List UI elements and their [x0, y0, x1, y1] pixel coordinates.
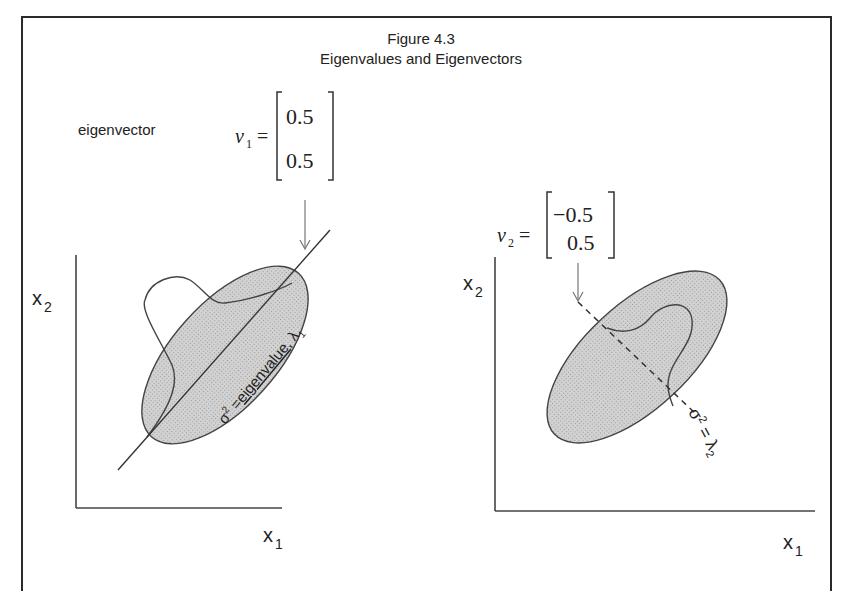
left-ellipse — [113, 238, 337, 471]
v1-axis-line — [118, 230, 330, 470]
svg-text:1: 1 — [275, 536, 283, 552]
svg-text:x: x — [263, 524, 273, 546]
svg-text:2: 2 — [508, 236, 514, 250]
svg-text:0.5: 0.5 — [567, 230, 595, 255]
left-panel: eigenvector v 1 = 0.5 0.5 x 2 x 1 — [32, 92, 337, 552]
eigenvector-label: eigenvector — [78, 121, 156, 138]
svg-text:2: 2 — [44, 299, 52, 315]
svg-text:1: 1 — [795, 543, 803, 559]
v2-vector-label: v 2 = −0.5 0.5 — [497, 192, 614, 258]
right-panel: v 2 = −0.5 0.5 x 2 x 1 σ2 = λ2 — [463, 192, 815, 559]
svg-text:v: v — [497, 224, 506, 246]
svg-text:0.5: 0.5 — [286, 104, 314, 129]
svg-text:=: = — [519, 224, 530, 246]
svg-text:=: = — [257, 125, 268, 147]
svg-text:x: x — [783, 531, 793, 553]
svg-text:1: 1 — [246, 137, 252, 151]
svg-text:v: v — [235, 125, 244, 147]
svg-text:2: 2 — [475, 284, 483, 300]
left-y-axis-label: x 2 — [32, 287, 52, 315]
svg-text:x: x — [463, 272, 473, 294]
svg-text:−0.5: −0.5 — [553, 202, 593, 227]
svg-text:x: x — [32, 287, 42, 309]
v1-vector-label: v 1 = 0.5 0.5 — [235, 92, 333, 180]
svg-text:0.5: 0.5 — [286, 148, 314, 173]
svg-text:σ2 = λ2: σ2 = λ2 — [683, 404, 726, 459]
lambda2-annotation: σ2 = λ2 — [683, 404, 726, 459]
left-x-axis-label: x 1 — [263, 524, 283, 552]
right-x-axis-label: x 1 — [783, 531, 803, 559]
right-y-axis-label: x 2 — [463, 272, 483, 300]
